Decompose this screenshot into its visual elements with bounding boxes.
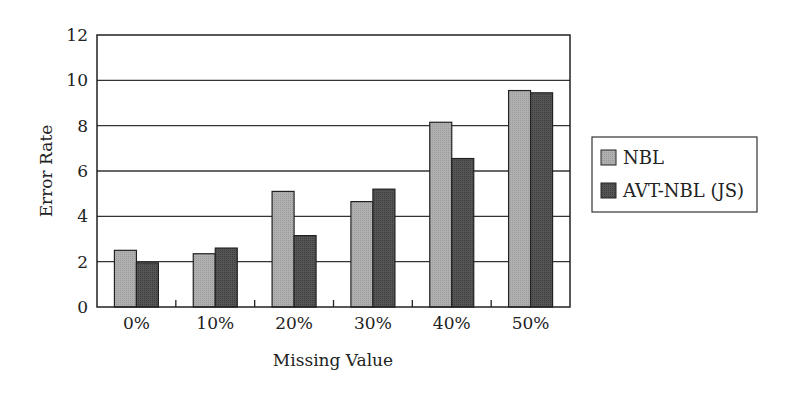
bar-chart: 0246810120%10%20%30%40%50% Missing Value… [0, 0, 792, 394]
bar [351, 202, 373, 307]
legend-swatch [601, 183, 616, 198]
bar [531, 93, 553, 307]
bar [272, 191, 294, 307]
y-tick-label: 8 [77, 116, 88, 136]
y-tick-label: 2 [77, 252, 88, 272]
y-tick-label: 0 [77, 297, 88, 317]
y-tick-label: 12 [66, 25, 88, 45]
legend-swatch [601, 150, 616, 165]
y-tick-label: 10 [66, 70, 88, 90]
legend-label: NBL [623, 147, 664, 168]
x-tick-label: 30% [354, 313, 392, 333]
bars [114, 91, 552, 307]
bar [215, 248, 237, 307]
gridlines [97, 80, 570, 261]
legend-label: AVT-NBL (JS) [622, 180, 744, 201]
y-tick-label: 6 [77, 161, 88, 181]
bar [136, 263, 158, 307]
x-axis-label: Missing Value [273, 350, 393, 370]
x-tick-label: 0% [123, 313, 150, 333]
x-tick-label: 20% [275, 313, 313, 333]
bar [294, 236, 316, 307]
y-axis-label: Error Rate [36, 125, 56, 218]
bar [452, 159, 474, 307]
bar [509, 91, 531, 307]
legend: NBLAVT-NBL (JS) [592, 137, 757, 212]
y-tick-label: 4 [77, 206, 88, 226]
bar [430, 122, 452, 307]
bar [114, 250, 136, 307]
bar [373, 189, 395, 307]
x-tick-label: 40% [433, 313, 471, 333]
x-tick-label: 10% [196, 313, 234, 333]
x-tick-label: 50% [512, 313, 550, 333]
bar [193, 254, 215, 307]
